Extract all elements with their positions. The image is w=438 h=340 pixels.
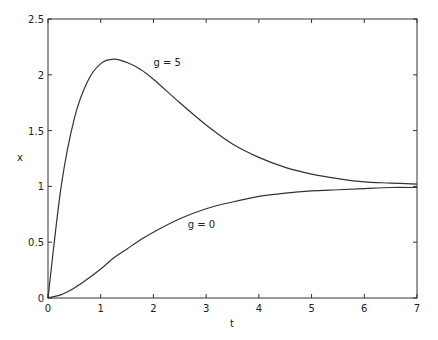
y-tick-label: 0.5 <box>28 237 44 248</box>
x-tick-label: 5 <box>308 303 314 314</box>
series-line <box>48 59 417 298</box>
y-tick-label: 0 <box>38 293 44 304</box>
x-tick-label: 3 <box>203 303 209 314</box>
series-lines <box>48 59 417 298</box>
y-tick-label: 1 <box>38 181 44 192</box>
x-tick-label: 6 <box>361 303 367 314</box>
x-tick-label: 2 <box>150 303 156 314</box>
series-annotation: g = 5 <box>153 57 180 68</box>
x-tick-label: 1 <box>98 303 104 314</box>
y-axis-label: x <box>17 152 23 163</box>
axis-ticks: 0123456700.511.522.5 <box>28 14 420 314</box>
plot-frame <box>48 19 417 298</box>
line-chart: 0123456700.511.522.5 g = 5g = 0 t x <box>0 0 438 340</box>
series-line <box>48 187 417 298</box>
y-tick-label: 2.5 <box>28 14 44 25</box>
y-tick-label: 2 <box>38 70 44 81</box>
y-tick-label: 1.5 <box>28 126 44 137</box>
series-annotation: g = 0 <box>188 219 215 230</box>
x-tick-label: 7 <box>414 303 420 314</box>
x-tick-label: 0 <box>45 303 51 314</box>
x-axis-label: t <box>230 318 234 329</box>
x-tick-label: 4 <box>256 303 262 314</box>
annotations: g = 5g = 0 <box>153 57 215 230</box>
